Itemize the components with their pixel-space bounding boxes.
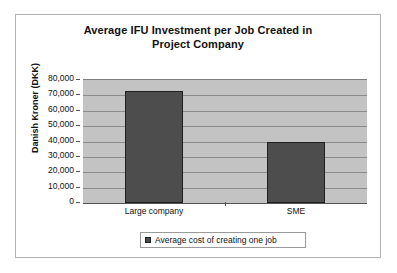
y-axis-tick-mark — [76, 79, 80, 80]
chart-title: Average IFU Investment per Job Created i… — [42, 23, 354, 51]
y-axis-tick-mark — [76, 171, 80, 172]
y-axis-tick-label: 60,000 — [48, 105, 74, 114]
legend-label: Average cost of creating one job — [155, 235, 277, 245]
bar — [267, 142, 325, 204]
y-axis-tick-label: 70,000 — [48, 89, 74, 98]
y-axis-tick-mark — [76, 187, 80, 188]
y-axis-tick-label: 40,000 — [48, 136, 74, 145]
plot-area — [83, 79, 367, 204]
y-axis-tick-label: 0 — [69, 197, 74, 206]
x-axis-tick-label: SME — [225, 206, 367, 216]
y-axis-tick-mark — [76, 94, 80, 95]
y-axis-tick-labels: 80,00070,00060,00050,00040,00030,00020,0… — [16, 73, 80, 209]
y-axis-tick-label: 20,000 — [48, 166, 74, 175]
y-axis-tick-mark — [76, 125, 80, 126]
y-axis-tick-mark — [76, 141, 80, 142]
y-axis-tick-mark — [76, 156, 80, 157]
x-axis-tick-label: Large company — [83, 206, 225, 216]
y-axis-tick-label: 80,000 — [48, 74, 74, 83]
chart-legend: Average cost of creating one job — [140, 232, 306, 248]
chart-title-line-2: Project Company — [152, 38, 244, 50]
y-axis-tick-label: 50,000 — [48, 120, 74, 129]
y-axis-tick-label: 10,000 — [48, 182, 74, 191]
chart-frame: Average IFU Investment per Job Created i… — [15, 14, 381, 258]
x-axis-tick-labels: Large companySME — [83, 206, 367, 220]
y-axis-tick-mark — [76, 110, 80, 111]
y-axis-tick-label: 30,000 — [48, 151, 74, 160]
legend-swatch-icon — [145, 237, 151, 243]
y-axis-tick-mark — [76, 202, 80, 203]
chart-title-line-1: Average IFU Investment per Job Created i… — [84, 24, 313, 36]
bar — [125, 91, 183, 203]
